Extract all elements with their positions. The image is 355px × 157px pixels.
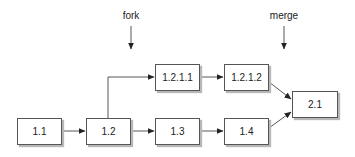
node-2.1: 2.1 [292,91,338,118]
node-1.2.1.1: 1.2.1.1 [155,64,200,91]
node-1.1: 1.1 [17,118,62,145]
fork-label: fork [123,10,140,21]
edge-1.4-2.1 [269,112,291,128]
node-1.4: 1.4 [224,118,269,145]
edge-1.2.1.2-2.1 [269,82,291,99]
node-1.3: 1.3 [155,118,200,145]
merge-label: merge [270,10,298,21]
edge-1.2-1.2.1.1 [108,77,154,118]
node-1.2: 1.2 [86,118,131,145]
node-1.2.1.2: 1.2.1.2 [224,64,269,91]
